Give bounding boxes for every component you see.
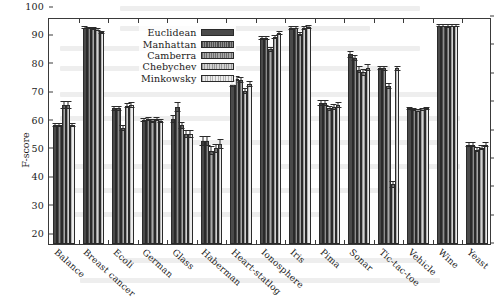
bar [484, 145, 488, 244]
error-bar [190, 130, 191, 138]
y-axis-tick-label: 80 [32, 57, 50, 68]
error-bar [240, 77, 241, 82]
legend-swatch [201, 52, 234, 59]
error-bar [426, 107, 427, 110]
legend-label: Chebychev [143, 61, 197, 72]
error-bar [392, 181, 393, 188]
error-bar [354, 55, 355, 61]
bar-group [407, 19, 429, 244]
y-axis-tick-label: 70 [32, 86, 50, 97]
x-axis-category-label: Glass [170, 247, 196, 272]
bar-group [348, 19, 370, 244]
error-bar [485, 142, 486, 147]
error-bar [367, 64, 368, 71]
error-bar [308, 25, 309, 28]
bar [129, 105, 133, 244]
legend-swatch [201, 75, 234, 82]
y-axis-label: F-score [20, 132, 31, 167]
x-axis-category-label: German [141, 247, 176, 280]
error-bar [122, 125, 123, 131]
error-bar [72, 123, 73, 128]
bar-group [319, 19, 341, 244]
error-bar [59, 123, 60, 128]
bar [247, 84, 251, 244]
bar-group [112, 19, 134, 244]
plot-area: 2030405060708090100 [48, 18, 491, 245]
error-bar [220, 139, 221, 149]
bar-group [53, 19, 75, 244]
y-axis-tick-mark [490, 44, 494, 45]
x-axis-category-label: Balance [52, 247, 87, 280]
bar [395, 68, 399, 244]
bar [100, 32, 104, 244]
legend-swatch [201, 41, 234, 48]
error-bar [207, 136, 208, 146]
legend-entry: Euclidean [141, 27, 234, 38]
error-bar [384, 66, 385, 71]
x-axis-labels: BalanceBreast cancerEcoliGermanGlassHabe… [48, 247, 491, 300]
error-bar [266, 36, 267, 40]
bar [277, 33, 281, 244]
legend-entry: Chebychev [141, 61, 234, 72]
bar [366, 68, 370, 244]
legend-swatch [201, 63, 234, 70]
error-bar [181, 122, 182, 129]
error-bar [160, 119, 161, 123]
x-axis-category-label: Yeast [466, 247, 491, 271]
y-axis-tick-mark [490, 186, 494, 187]
bar [70, 125, 74, 244]
bar-group [466, 19, 488, 244]
bar [188, 134, 192, 244]
bar-group [378, 19, 400, 244]
y-axis-tick-mark [490, 129, 494, 130]
bar-group [289, 19, 311, 244]
y-axis-tick-label: 20 [32, 228, 50, 239]
error-bar [397, 66, 398, 71]
bar [159, 121, 163, 244]
y-axis-tick-label: 30 [32, 199, 50, 210]
x-axis-category-label: Breast cancer [82, 247, 138, 299]
error-bar [388, 83, 389, 89]
y-axis-tick-label: 40 [32, 171, 50, 182]
error-bar [295, 26, 296, 29]
legend-label: Euclidean [148, 27, 197, 38]
y-axis-tick-label: 60 [32, 114, 50, 125]
error-bar [118, 106, 119, 111]
bar-group [437, 19, 459, 244]
error-bar [131, 102, 132, 108]
y-axis-tick-mark [490, 101, 494, 102]
bar [306, 27, 310, 244]
error-bar [177, 102, 178, 112]
bar-group [260, 19, 282, 244]
y-axis-tick-label: 50 [32, 142, 50, 153]
legend-label: Minkowsky [141, 73, 196, 84]
legend-entry: Camberra [141, 50, 234, 61]
bar-groups [49, 19, 490, 244]
legend-entry: Minkowsky [141, 73, 234, 84]
y-axis-tick-mark [490, 243, 494, 244]
x-axis-category-label: Wine [436, 247, 460, 270]
error-bar [270, 47, 271, 52]
error-bar [173, 115, 174, 123]
legend-label: Manhattan [143, 39, 197, 50]
legend-entry: Manhattan [141, 38, 234, 49]
bar [454, 26, 458, 244]
y-axis-tick-mark [490, 157, 494, 158]
chart-legend: EuclideanManhattanCamberraChebychevMinko… [139, 26, 236, 85]
f-score-bar-chart: 2030405060708090100 F-score BalanceBreas… [0, 0, 503, 300]
y-axis-tick-label: 100 [25, 1, 49, 12]
error-bar [68, 101, 69, 110]
legend-label: Camberra [147, 50, 196, 61]
error-bar [300, 32, 301, 36]
x-axis-category-label: Pima [318, 247, 342, 270]
legend-swatch [201, 29, 234, 36]
bar [218, 144, 222, 244]
error-bar [101, 31, 102, 34]
error-bar [279, 31, 280, 35]
y-axis-tick-mark [490, 72, 494, 73]
y-axis-tick-mark [490, 16, 494, 17]
x-axis-category-label: Iris [288, 247, 307, 265]
error-bar [338, 102, 339, 108]
bar-group [83, 19, 105, 244]
error-bar [274, 35, 275, 39]
